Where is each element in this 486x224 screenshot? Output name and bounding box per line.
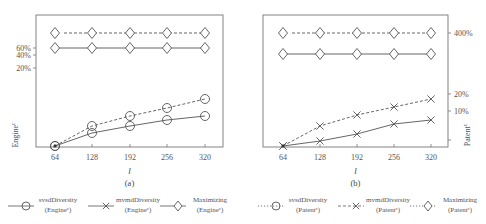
diamond-marker <box>316 49 325 60</box>
origin-dot <box>281 144 284 147</box>
panel-label: (b) <box>351 178 361 188</box>
x-tick-label: 128 <box>86 153 98 162</box>
legend-label: Maximizing <box>193 196 228 204</box>
legend-sublabel: (Enginec) <box>45 206 72 215</box>
x-tick-label: 192 <box>351 153 363 162</box>
x-tick-label: 64 <box>279 153 287 162</box>
legend-sublabel: (Patentc) <box>448 206 473 215</box>
legend-item: mvmdDiversity(Patentc) <box>338 196 410 214</box>
diamond-marker <box>51 43 60 54</box>
series-path <box>283 120 431 146</box>
diamond-marker <box>390 28 399 39</box>
chart-canvas: 64128192256320l(a)60%40%20%EnginecsvsdDi… <box>0 0 486 224</box>
x-tick-label: 128 <box>314 153 326 162</box>
diamond-marker <box>126 28 135 39</box>
circle-marker <box>163 104 172 113</box>
x-marker <box>390 103 397 110</box>
diamond-marker <box>88 28 97 39</box>
legend-label: mvmdDiversity <box>116 196 160 204</box>
diamond-marker <box>163 28 172 39</box>
legend-item: Maximizing(Enginec) <box>160 196 228 214</box>
diamond-marker <box>390 49 399 60</box>
x-marker <box>353 111 360 118</box>
series-line <box>51 28 210 39</box>
y-tick-label: 10% <box>454 107 469 116</box>
x-tick-label: 320 <box>425 153 437 162</box>
origin-dot <box>53 144 56 147</box>
diamond-marker <box>88 43 97 54</box>
legend-sublabel: (Patentc) <box>296 206 321 215</box>
legend-label: Maximizing <box>443 196 478 204</box>
legend-item: svsdDiversity(Patentc) <box>258 196 328 214</box>
y-tick-label: 20% <box>454 90 469 99</box>
series-path <box>55 99 205 146</box>
x-tick-label: 192 <box>124 153 136 162</box>
chart-panel-b: 64128192256320l(b)400%20%10%PatentcsvsdD… <box>258 15 478 214</box>
diamond-marker <box>353 28 362 39</box>
series-line <box>279 28 436 39</box>
diamond-marker <box>279 28 288 39</box>
legend-item: svsdDiversity(Enginec) <box>8 196 78 214</box>
x-axis-label: l <box>354 166 357 176</box>
y-tick-label: 20% <box>16 64 31 73</box>
x-axis-label: l <box>128 166 131 176</box>
diamond-marker <box>201 43 210 54</box>
legend-item: mvmdDiversity(Enginec) <box>88 196 160 214</box>
chart-panel-a: 64128192256320l(a)60%40%20%EnginecsvsdDi… <box>8 15 228 214</box>
diamond-marker <box>174 201 182 211</box>
diamond-marker <box>51 28 60 39</box>
y-axis-label: Enginec <box>10 122 20 148</box>
circle-marker <box>201 95 210 104</box>
series-line <box>51 95 210 151</box>
diamond-marker <box>316 28 325 39</box>
series-line <box>279 49 436 60</box>
diamond-marker <box>279 49 288 60</box>
x-tick-label: 320 <box>199 153 211 162</box>
legend-label: mvmdDiversity <box>366 196 410 204</box>
x-tick-label: 256 <box>388 153 400 162</box>
y-tick-label: 400% <box>454 29 473 38</box>
x-tick-label: 64 <box>51 153 59 162</box>
diamond-marker <box>427 49 436 60</box>
legend-sublabel: (Enginec) <box>125 206 152 215</box>
legend-sublabel: (Patentc) <box>376 206 401 215</box>
y-axis-label: Patentc <box>462 123 472 146</box>
panel-label: (a) <box>125 178 135 188</box>
series-line <box>51 43 210 54</box>
diamond-marker <box>424 201 432 211</box>
diamond-marker <box>353 49 362 60</box>
y-tick-label: 40% <box>16 51 31 60</box>
diamond-marker <box>427 28 436 39</box>
diamond-marker <box>126 43 135 54</box>
x-tick-label: 256 <box>161 153 173 162</box>
diamond-marker <box>163 43 172 54</box>
legend-label: svsdDiversity <box>39 196 78 204</box>
legend-item: Maximizing(Patentc) <box>410 196 478 214</box>
legend-sublabel: (Enginec) <box>197 206 224 215</box>
x-marker <box>316 122 323 129</box>
x-marker <box>427 95 434 102</box>
x-marker <box>353 130 360 137</box>
legend-label: svsdDiversity <box>289 196 328 204</box>
diamond-marker <box>201 28 210 39</box>
